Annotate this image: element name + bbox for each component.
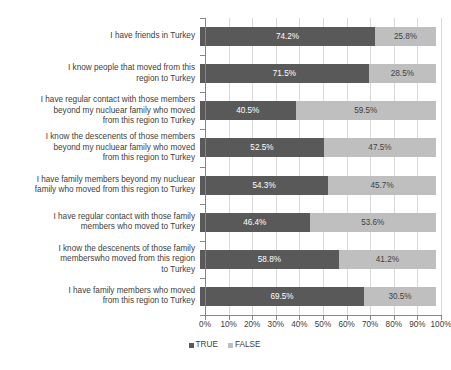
chart-category-row: I know the descenents of those members b…: [0, 129, 449, 166]
y-axis-line: [205, 18, 206, 315]
chart-category-row: I have regular contact with those family…: [0, 204, 449, 241]
stacked-bar[interactable]: 46.4%53.6%: [200, 213, 436, 232]
bar-cell: 46.4%53.6%: [200, 204, 444, 241]
bar-segment-false[interactable]: 30.5%: [364, 287, 436, 306]
plot-area: I have friends in Turkey74.2%25.8%I know…: [0, 18, 449, 315]
y-axis-tick: [200, 18, 205, 19]
bar-segment-true[interactable]: 46.4%: [200, 213, 310, 232]
bar-value-label: 53.6%: [361, 218, 384, 227]
stacked-bar[interactable]: 74.2%25.8%: [200, 27, 436, 46]
x-axis-tick: [417, 316, 418, 320]
bar-segment-false[interactable]: 53.6%: [310, 213, 436, 232]
x-axis-tick-label: 90%: [409, 320, 425, 330]
y-axis-tick: [200, 92, 205, 93]
stacked-bar[interactable]: 71.5%28.5%: [200, 64, 436, 83]
bar-value-label: 25.8%: [394, 32, 417, 41]
category-label: I have regular contact with those member…: [0, 95, 200, 126]
bar-value-label: 58.8%: [258, 255, 281, 264]
x-axis-tick-label: 60%: [338, 320, 354, 330]
bar-segment-true[interactable]: 69.5%: [200, 287, 364, 306]
x-axis-tick: [229, 316, 230, 320]
category-label: I know the descenents of those family me…: [0, 244, 200, 275]
x-axis-tick: [394, 316, 395, 320]
bar-cell: 71.5%28.5%: [200, 55, 444, 92]
x-axis-tick: [252, 316, 253, 320]
x-axis-tick: [276, 316, 277, 320]
chart-category-row: I know people that moved from this regio…: [0, 55, 449, 92]
bar-cell: 69.5%30.5%: [200, 278, 444, 315]
category-label: I have friends in Turkey: [0, 31, 200, 41]
x-axis-tick: [370, 316, 371, 320]
bar-segment-false[interactable]: 45.7%: [328, 176, 436, 195]
x-axis-tick-label: 10%: [220, 320, 236, 330]
stacked-bar[interactable]: 40.5%59.5%: [200, 101, 436, 120]
x-axis-tick: [347, 316, 348, 320]
x-axis-tick-label: 40%: [291, 320, 307, 330]
legend-label: FALSE: [235, 340, 261, 350]
bar-value-label: 45.7%: [370, 181, 393, 190]
legend-swatch-icon: [228, 343, 233, 348]
chart-category-row: I have family members beyond my nucluear…: [0, 167, 449, 204]
bar-cell: 52.5%47.5%: [200, 129, 444, 166]
bar-value-label: 41.2%: [376, 255, 399, 264]
bar-segment-true[interactable]: 74.2%: [200, 27, 375, 46]
bar-value-label: 74.2%: [276, 32, 299, 41]
bar-value-label: 28.5%: [391, 69, 414, 78]
category-label: I have family members beyond my nucluear…: [0, 175, 200, 196]
x-axis-tick-label: 70%: [362, 320, 378, 330]
bar-segment-true[interactable]: 52.5%: [200, 138, 324, 157]
bar-segment-true[interactable]: 54.3%: [200, 176, 328, 195]
legend-label: TRUE: [196, 340, 218, 350]
bar-segment-false[interactable]: 59.5%: [296, 101, 436, 120]
bar-cell: 58.8%41.2%: [200, 241, 444, 278]
bar-value-label: 52.5%: [250, 143, 273, 152]
bar-cell: 74.2%25.8%: [200, 18, 444, 55]
y-axis-tick: [200, 241, 205, 242]
y-axis-tick: [200, 129, 205, 130]
category-label: I know the descenents of those members b…: [0, 132, 200, 163]
x-axis-tick-label: 50%: [315, 320, 331, 330]
legend-item[interactable]: TRUE: [189, 340, 218, 350]
chart-category-row: I have friends in Turkey74.2%25.8%: [0, 18, 449, 55]
stacked-bar[interactable]: 58.8%41.2%: [200, 250, 436, 269]
bar-value-label: 59.5%: [354, 106, 377, 115]
y-axis-tick: [200, 278, 205, 279]
x-axis-tick: [441, 316, 442, 320]
chart-category-row: I have family members who moved from thi…: [0, 278, 449, 315]
legend-swatch-icon: [189, 343, 194, 348]
x-axis-tick-label: 80%: [386, 320, 402, 330]
bar-value-label: 30.5%: [388, 292, 411, 301]
x-axis-tick: [323, 316, 324, 320]
bar-value-label: 47.5%: [368, 143, 391, 152]
bar-value-label: 71.5%: [273, 69, 296, 78]
bar-value-label: 46.4%: [243, 218, 266, 227]
bar-segment-true[interactable]: 71.5%: [200, 64, 369, 83]
y-axis-tick: [200, 167, 205, 168]
bar-segment-true[interactable]: 58.8%: [200, 250, 339, 269]
stacked-bar[interactable]: 69.5%30.5%: [200, 287, 436, 306]
legend-item[interactable]: FALSE: [228, 340, 261, 350]
bar-segment-true[interactable]: 40.5%: [200, 101, 296, 120]
x-axis-tick: [205, 316, 206, 320]
y-axis-tick: [200, 55, 205, 56]
bar-cell: 40.5%59.5%: [200, 92, 444, 129]
stacked-bar[interactable]: 54.3%45.7%: [200, 176, 436, 195]
category-label: I know people that moved from this regio…: [0, 63, 200, 84]
bar-value-label: 40.5%: [236, 106, 259, 115]
bar-value-label: 69.5%: [270, 292, 293, 301]
x-axis-tick-labels: 0%10%20%30%40%50%60%70%80%90%100%: [0, 320, 449, 334]
x-axis-tick-label: 0%: [199, 320, 211, 330]
x-axis-tick-label: 30%: [268, 320, 284, 330]
bar-cell: 54.3%45.7%: [200, 167, 444, 204]
bar-segment-false[interactable]: 41.2%: [339, 250, 436, 269]
y-axis-tick: [200, 204, 205, 205]
x-axis-tick-label: 100%: [431, 320, 451, 330]
chart-category-row: I have regular contact with those member…: [0, 92, 449, 129]
chart-category-row: I know the descenents of those family me…: [0, 241, 449, 278]
bar-segment-false[interactable]: 28.5%: [369, 64, 436, 83]
bar-segment-false[interactable]: 25.8%: [375, 27, 436, 46]
x-axis-tick: [299, 316, 300, 320]
stacked-bar[interactable]: 52.5%47.5%: [200, 138, 436, 157]
bar-segment-false[interactable]: 47.5%: [324, 138, 436, 157]
